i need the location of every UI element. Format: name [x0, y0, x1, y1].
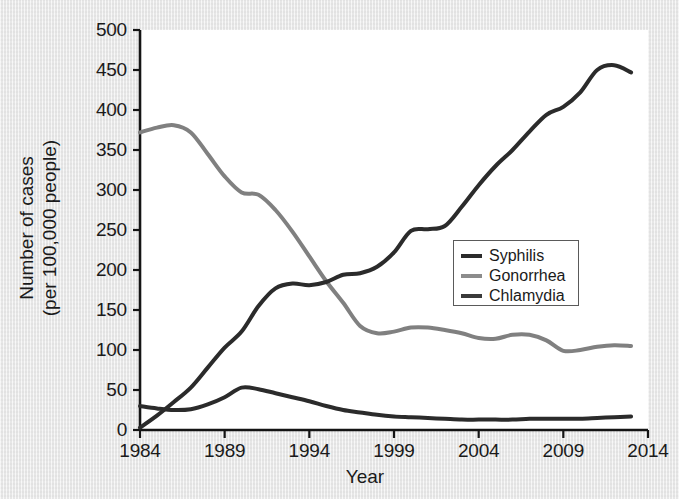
x-tick-label: 2009 [528, 441, 598, 460]
legend-swatch-syphilis [461, 254, 482, 258]
x-tick-label: 1994 [274, 441, 344, 460]
x-tick-label: 1984 [105, 441, 175, 460]
legend-swatch-chlamydia [461, 294, 482, 298]
chart-legend: Syphilis Gonorrhea Chlamydia [453, 240, 579, 306]
x-tick-label: 1999 [359, 441, 429, 460]
y-axis-title-line-2: (per 100,000 people) [38, 98, 61, 358]
y-axis-title-line-1: Number of cases [15, 98, 38, 358]
y-axis-title: Number of cases (per 100,000 people) [15, 98, 61, 358]
y-tick-label: 100 [65, 340, 127, 359]
legend-item-syphilis: Syphilis [461, 246, 578, 265]
legend-item-gonorrhea: Gonorrhea [461, 266, 578, 285]
legend-item-chlamydia: Chlamydia [461, 286, 578, 305]
legend-label-chlamydia: Chlamydia [489, 288, 565, 304]
y-tick-label: 150 [65, 300, 127, 319]
y-tick-label: 200 [65, 260, 127, 279]
chart-figure: 050100150200250300350400450500 198419891… [0, 0, 679, 499]
y-tick-label: 400 [65, 100, 127, 119]
y-tick-label: 300 [65, 180, 127, 199]
x-tick-label: 2014 [613, 441, 679, 460]
y-tick-label: 250 [65, 220, 127, 239]
x-tick-label: 2004 [444, 441, 514, 460]
legend-swatch-gonorrhea [461, 274, 482, 278]
y-tick-label: 50 [65, 380, 127, 399]
x-axis-title: Year [310, 466, 420, 488]
y-tick-label: 350 [65, 140, 127, 159]
legend-label-gonorrhea: Gonorrhea [489, 268, 566, 284]
y-tick-label: 450 [65, 60, 127, 79]
y-tick-label: 0 [65, 420, 127, 439]
plot-background [140, 30, 648, 430]
legend-label-syphilis: Syphilis [489, 248, 544, 264]
x-tick-label: 1989 [190, 441, 260, 460]
y-tick-label: 500 [65, 20, 127, 39]
